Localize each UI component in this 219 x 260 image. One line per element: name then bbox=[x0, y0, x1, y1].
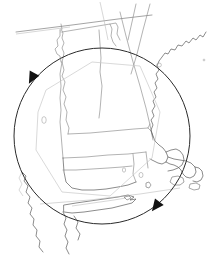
connecticut-rhode-island-border bbox=[133, 154, 136, 182]
new-hampshire-maine-border bbox=[120, 4, 153, 140]
connecticut-shore bbox=[63, 158, 136, 190]
nantucket bbox=[189, 183, 200, 190]
hudson-river bbox=[19, 172, 43, 252]
selection-region-polygon bbox=[36, 62, 160, 196]
massachusetts-north-border bbox=[68, 124, 153, 137]
map-canvas[interactable] bbox=[0, 0, 219, 260]
lake-champlain bbox=[42, 117, 46, 124]
northern-new-england-boundary bbox=[62, 23, 120, 46]
rotation-selector-circle[interactable] bbox=[14, 48, 190, 224]
block-island bbox=[146, 182, 151, 188]
long-island bbox=[64, 195, 136, 213]
massachusetts-south-border bbox=[63, 152, 148, 168]
vermont-new-hampshire-border bbox=[62, 30, 102, 134]
atlantic-coastline bbox=[150, 32, 206, 171]
marthas-vineyard bbox=[170, 176, 184, 185]
rotate-handle-upper-left[interactable] bbox=[29, 71, 40, 84]
map-figure: New England region map with circular rot… bbox=[0, 0, 219, 260]
quebec-vermont-notch bbox=[55, 24, 64, 62]
inland-lakes bbox=[122, 59, 205, 177]
